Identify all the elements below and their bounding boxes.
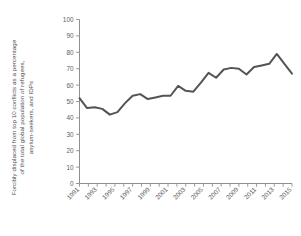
x-tick-label: 2013 <box>260 185 275 200</box>
x-tick-label: 1993 <box>83 185 98 200</box>
y-axis-tick-labels: 1009080706050403020100 <box>63 16 74 187</box>
x-tick-label: 1995 <box>101 185 116 200</box>
x-tick-label: 2007 <box>207 185 222 200</box>
y-tick-label: 30 <box>66 131 74 138</box>
y-tick-label: 90 <box>66 32 74 39</box>
x-tick-label: 1991 <box>65 185 80 200</box>
x-tick-label: 2001 <box>154 185 169 200</box>
y-axis-tick-marks <box>76 20 80 184</box>
y-tick-label: 60 <box>66 82 74 89</box>
data-series-line <box>80 54 293 115</box>
y-tick-label: 20 <box>66 147 74 154</box>
x-tick-label: 1997 <box>118 185 133 200</box>
y-tick-label: 70 <box>66 65 74 72</box>
x-tick-label: 2015 <box>278 185 293 200</box>
y-tick-label: 10 <box>66 164 74 171</box>
y-tick-label: 40 <box>66 114 74 121</box>
x-tick-label: 2003 <box>171 185 186 200</box>
x-axis-tick-labels: 1991199319951997199920012003200520072009… <box>65 185 293 200</box>
x-tick-label: 2009 <box>225 185 240 200</box>
x-tick-label: 1999 <box>136 185 151 200</box>
y-tick-label: 0 <box>70 180 74 187</box>
line-chart-plot: 1009080706050403020100 19911993199519971… <box>0 0 301 236</box>
x-tick-label: 2005 <box>189 185 204 200</box>
y-tick-label: 80 <box>66 49 74 56</box>
y-tick-label: 50 <box>66 98 74 105</box>
y-tick-label: 100 <box>63 16 74 23</box>
x-tick-label: 2011 <box>243 185 258 200</box>
chart-figure: Forcibly displaced from top 10 conflicts… <box>0 0 301 236</box>
